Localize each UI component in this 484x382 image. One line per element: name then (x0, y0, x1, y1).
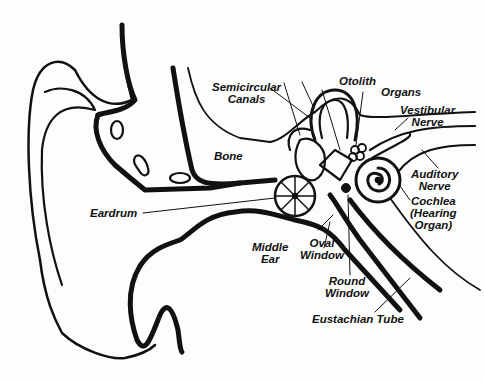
label-oval-window: Oval Window (300, 237, 344, 261)
label-line: Vestibular (400, 104, 455, 116)
label-line: Nerve (400, 116, 455, 128)
label-bone: Bone (214, 150, 243, 162)
label-middle-ear: Middle Ear (252, 241, 288, 265)
label-semicircular-canals: Semicircular Canals (212, 81, 281, 105)
pinna-outline (29, 25, 155, 358)
label-organs: Organs (381, 86, 421, 98)
label-line: Window (325, 287, 369, 299)
label-line: (Hearing (410, 207, 457, 219)
label-line: Cochlea (410, 195, 457, 207)
label-line: Organ) (410, 219, 457, 231)
label-eardrum: Eardrum (90, 207, 137, 219)
label-line: Canals (212, 93, 281, 105)
label-line: Oval (300, 237, 344, 249)
label-line: Auditory (411, 168, 458, 180)
label-otolith: Otolith (339, 75, 376, 87)
label-eustachian-tube: Eustachian Tube (312, 313, 404, 325)
label-round-window: Round Window (325, 275, 369, 299)
label-cochlea: Cochlea (Hearing Organ) (410, 195, 457, 231)
ear-diagram: Semicircular Canals Otolith Organs Vesti… (0, 0, 484, 382)
label-auditory-nerve: Auditory Nerve (411, 168, 458, 192)
label-line: Window (300, 249, 344, 261)
label-vestibular-nerve: Vestibular Nerve (400, 104, 455, 128)
label-line: Middle (252, 241, 288, 253)
label-line: Round (325, 275, 369, 287)
label-line: Nerve (411, 180, 458, 192)
label-line: Semicircular (212, 81, 281, 93)
label-line: Ear (252, 253, 288, 265)
